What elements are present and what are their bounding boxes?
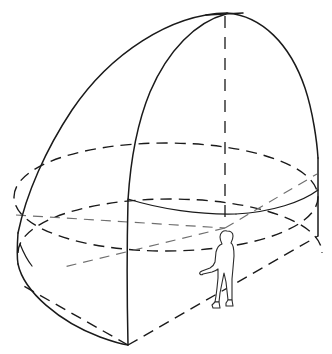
floor-diagonal-right (225, 174, 317, 228)
left-wall-edge (17, 233, 18, 264)
base-ring-front-arc (18, 264, 128, 345)
front-cut-edge (127, 200, 128, 345)
human-figure-body (200, 231, 234, 302)
top-ring-ellipse (14, 143, 318, 251)
floor-diagonal-left (16, 215, 225, 228)
top-ring-front-right-arc (236, 190, 318, 214)
bottom-ring-ellipse (18, 199, 322, 253)
human-scale-figure (200, 231, 234, 308)
near-left-floor-edge (20, 284, 128, 345)
dome-section-arc (128, 14, 226, 200)
dome-outer-silhouette (18, 13, 227, 233)
human-figure-left-foot (212, 302, 220, 308)
left-wall-notch (20, 244, 32, 266)
dome-diagram-svg (0, 0, 332, 354)
floor-diagonal-near-left (60, 228, 225, 268)
human-figure-right-foot (226, 300, 233, 306)
dome-outer-silhouette-right (227, 13, 318, 158)
diagram-canvas (0, 0, 332, 354)
